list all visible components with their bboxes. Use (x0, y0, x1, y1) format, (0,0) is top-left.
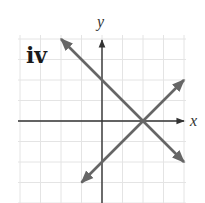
panel-label: iv (26, 42, 48, 68)
series-line-2 (82, 80, 185, 183)
y-axis-label: y (95, 13, 105, 31)
x-axis-label: x (189, 112, 197, 129)
line-chart: x y iv (0, 0, 205, 203)
